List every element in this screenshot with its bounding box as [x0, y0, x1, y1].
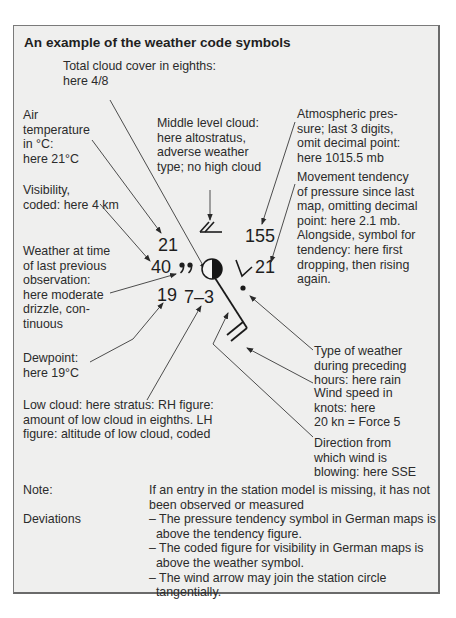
- leader-low-cloud: [147, 306, 201, 400]
- note-text-line: If an entry in the station model is miss…: [149, 483, 430, 498]
- deviation-line: – The wind arrow may join the station ci…: [149, 571, 386, 586]
- leader-visibility: [100, 204, 150, 261]
- leader-total-cloud: [110, 100, 205, 269]
- note-label: Note:: [23, 483, 53, 498]
- rain-dot-symbol: [240, 285, 245, 290]
- leader-past-weather: [250, 296, 313, 350]
- deviation-line: – The coded figure for visibility in Ger…: [149, 541, 424, 556]
- leader-tendency: [271, 184, 295, 262]
- leader-dewpoint: [90, 303, 163, 362]
- deviation-line: above the weather symbol.: [149, 556, 304, 571]
- tendency-symbol: [236, 260, 252, 276]
- leader-air-temperature: [92, 140, 161, 233]
- note-text-line: been observed or measured: [149, 498, 304, 513]
- deviation-line: – The pressure tendency symbol in German…: [149, 512, 436, 527]
- deviations-label: Deviations: [23, 512, 81, 527]
- deviation-line: above the tendency figure.: [149, 527, 302, 542]
- notes-section: Note: If an entry in the station model i…: [23, 483, 433, 593]
- deviation-line: tangentially.: [149, 585, 221, 600]
- leader-previous-weather: [110, 274, 176, 293]
- altostratus-symbol: [200, 222, 222, 232]
- drizzle-symbol: [179, 262, 192, 273]
- station-circle-cloud-cover: [202, 259, 222, 279]
- leader-pressure: [262, 122, 295, 224]
- leader-wind-speed: [247, 348, 313, 383]
